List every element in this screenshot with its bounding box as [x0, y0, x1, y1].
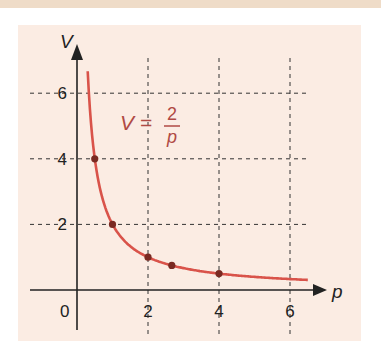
grid-lines	[30, 58, 310, 335]
equation-numerator: 2	[167, 104, 177, 124]
equation-lhs: V =	[120, 111, 152, 134]
data-point	[215, 270, 222, 277]
origin-label: 0	[60, 302, 69, 321]
chart-svg: 246246 p V 0 V = 2 p	[0, 0, 381, 364]
data-point	[144, 254, 151, 261]
equation-denominator: p	[166, 127, 177, 147]
y-axis-label: V	[60, 31, 75, 52]
data-point	[109, 221, 116, 228]
data-point	[91, 155, 98, 162]
x-tick-label: 2	[143, 302, 152, 321]
y-axis-arrow-icon	[71, 44, 83, 60]
y-tick-label: 2	[58, 215, 67, 234]
x-tick-label: 6	[285, 302, 294, 321]
y-tick-label: 6	[58, 84, 67, 103]
data-point	[168, 262, 175, 269]
x-tick-label: 4	[214, 302, 223, 321]
equation-label: V = 2 p	[120, 104, 180, 147]
axes	[30, 58, 315, 330]
data-points	[91, 155, 222, 277]
curve-v-equals-2-over-p	[88, 71, 308, 280]
x-axis-label: p	[331, 281, 343, 302]
x-axis-arrow-icon	[313, 284, 327, 296]
y-tick-label: 4	[58, 150, 67, 169]
